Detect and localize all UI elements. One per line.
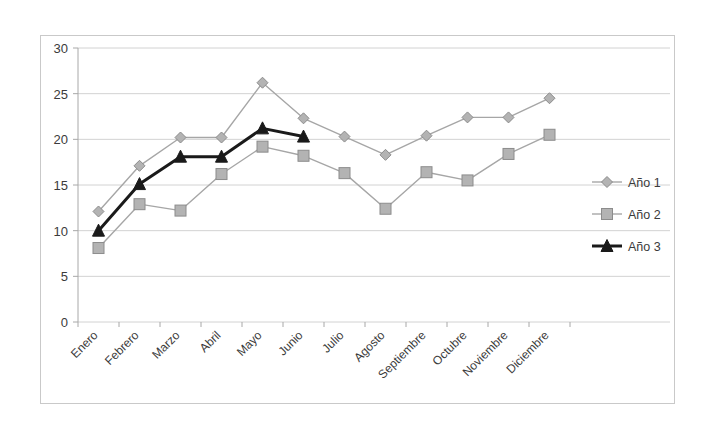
- x-category-label: Octubre: [430, 328, 470, 368]
- series-markers-group: [93, 77, 556, 253]
- data-point-marker-square: [503, 148, 514, 159]
- y-tick-labels-group: 051015202530: [54, 41, 68, 330]
- data-point-marker-diamond: [175, 132, 186, 143]
- data-point-marker-square: [134, 199, 145, 210]
- x-category-label: Junio: [275, 328, 305, 358]
- y-tick-label: 5: [61, 269, 68, 284]
- legend-label-2: Año 2: [628, 208, 661, 222]
- x-category-label: Julio: [319, 328, 347, 356]
- y-tick-label: 0: [61, 315, 68, 330]
- gridlines-group: [78, 48, 670, 322]
- series-line-1: [99, 83, 550, 212]
- data-point-marker-square: [257, 141, 268, 152]
- y-tick-marks-group: [73, 48, 78, 322]
- data-point-marker-square: [93, 243, 104, 254]
- chart-legend: Año 1Año 2Año 3: [592, 176, 661, 254]
- data-point-marker-triangle: [134, 178, 146, 190]
- y-tick-label: 10: [54, 224, 68, 239]
- x-category-label: Abril: [197, 328, 224, 355]
- data-point-marker-square: [175, 205, 186, 216]
- series-lines-group: [99, 83, 550, 248]
- data-point-marker-square: [544, 129, 555, 140]
- data-point-marker-diamond: [462, 112, 473, 123]
- data-point-marker-square: [462, 175, 473, 186]
- y-tick-label: 30: [54, 41, 68, 56]
- data-point-marker-diamond: [602, 177, 613, 188]
- data-point-marker-square: [421, 167, 432, 178]
- x-category-label: Noviembre: [460, 328, 511, 379]
- data-point-marker-square: [216, 169, 227, 180]
- data-point-marker-diamond: [339, 131, 350, 142]
- x-category-label: Agosto: [351, 328, 388, 365]
- y-tick-label: 25: [54, 87, 68, 102]
- x-category-label: Diciembre: [504, 328, 552, 376]
- x-category-label: Mayo: [234, 328, 265, 359]
- y-tick-label: 15: [54, 178, 68, 193]
- data-point-marker-square: [380, 203, 391, 214]
- x-category-label: Febrero: [102, 328, 142, 368]
- legend-label-3: Año 3: [628, 240, 661, 254]
- data-point-marker-square: [602, 209, 613, 220]
- data-point-marker-diamond: [544, 93, 555, 104]
- legend-label-1: Año 1: [628, 176, 661, 190]
- line-chart-plot: 051015202530 EneroFebreroMarzoAbrilMayoJ…: [0, 0, 713, 432]
- x-category-label: Enero: [68, 328, 101, 361]
- data-point-marker-square: [298, 150, 309, 161]
- y-tick-label: 20: [54, 132, 68, 147]
- data-point-marker-diamond: [503, 112, 514, 123]
- x-category-label: Marzo: [149, 328, 183, 362]
- data-point-marker-square: [339, 168, 350, 179]
- data-point-marker-diamond: [216, 132, 227, 143]
- data-point-marker-diamond: [380, 149, 391, 160]
- x-category-labels-group: EneroFebreroMarzoAbrilMayoJunioJulioAgos…: [68, 328, 552, 382]
- x-tick-marks-group: [78, 322, 570, 327]
- chart-container: 051015202530 EneroFebreroMarzoAbrilMayoJ…: [0, 0, 713, 432]
